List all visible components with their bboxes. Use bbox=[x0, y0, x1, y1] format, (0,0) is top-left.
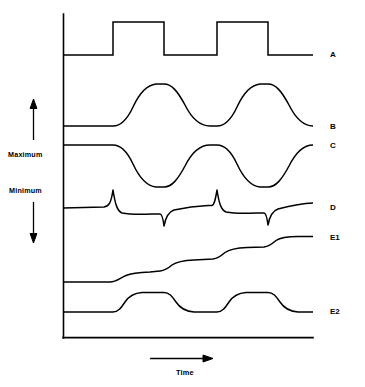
trace-label-E1: E1 bbox=[330, 233, 340, 242]
trace-D-path bbox=[63, 190, 313, 226]
amplitude-axis-maximum-label: Maximum bbox=[8, 150, 43, 159]
trace-E1-path bbox=[63, 237, 313, 283]
amplitude-axis-minimum-label: Minimum bbox=[9, 186, 42, 195]
up-arrow bbox=[30, 99, 37, 140]
trace-label-E2: E2 bbox=[330, 307, 340, 316]
time-axis-label: Time bbox=[176, 368, 194, 377]
trace-label-A: A bbox=[330, 50, 336, 59]
trace-C-path bbox=[63, 145, 313, 187]
trace-label-C: C bbox=[330, 141, 336, 150]
axis-lines bbox=[63, 14, 313, 338]
trace-A-path bbox=[63, 22, 313, 55]
trace-E2-path bbox=[63, 293, 313, 313]
trace-label-D: D bbox=[330, 203, 336, 212]
time-direction-arrow bbox=[150, 355, 213, 362]
waveform-plot-svg bbox=[0, 0, 365, 387]
trace-B-path bbox=[63, 84, 313, 126]
waveform-figure: Maximum Minimum Time A B C D E1 E2 bbox=[0, 0, 365, 387]
trace-label-B: B bbox=[330, 122, 336, 131]
down-arrow bbox=[30, 202, 37, 243]
